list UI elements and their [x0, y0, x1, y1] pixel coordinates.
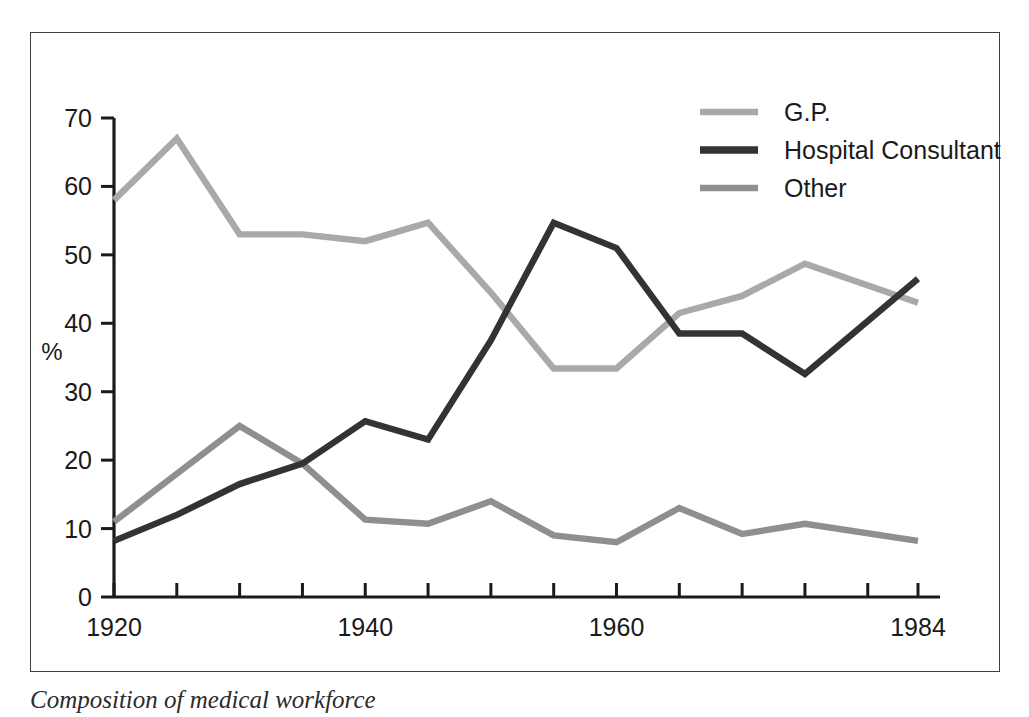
legend-label: Hospital Consultant [784, 136, 1001, 164]
legend-label: Other [784, 174, 847, 202]
y-axis-title-group: % [41, 338, 62, 365]
x-axis-tick-label: 1920 [86, 613, 142, 641]
chart-legend: G.P.Hospital ConsultantOther [700, 98, 1001, 202]
y-axis-tick-label: 60 [64, 172, 92, 200]
x-axis-tick-label: 1984 [890, 613, 946, 641]
x-axis-tick-label: 1960 [589, 613, 645, 641]
y-axis-title: % [41, 338, 62, 365]
y-axis-tick-label: 40 [64, 309, 92, 337]
y-axis: 010203040506070 [64, 104, 114, 611]
x-axis-tick-label: 1940 [337, 613, 393, 641]
y-axis-tick-label: 50 [64, 241, 92, 269]
line-chart: 010203040506070 1920194019601984 G.P.Hos… [0, 0, 1029, 717]
chart-page: 010203040506070 1920194019601984 G.P.Hos… [0, 0, 1029, 717]
x-axis: 1920194019601984 [86, 583, 946, 641]
y-axis-tick-label: 20 [64, 446, 92, 474]
figure-caption: Composition of medical workforce [30, 686, 376, 717]
y-axis-tick-label: 10 [64, 515, 92, 543]
legend-label: G.P. [784, 98, 831, 126]
y-axis-tick-label: 0 [78, 583, 92, 611]
y-axis-tick-label: 70 [64, 104, 92, 132]
y-axis-tick-label: 30 [64, 378, 92, 406]
